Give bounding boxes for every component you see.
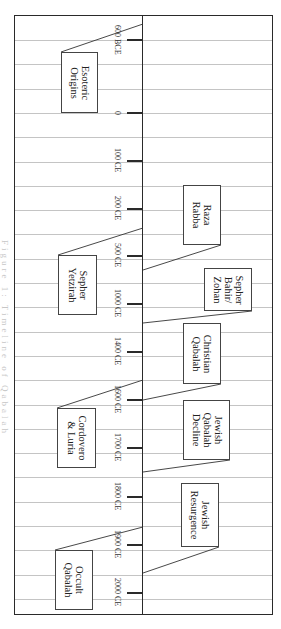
event-label: Sepher Bahir/ Zohan bbox=[212, 275, 245, 304]
connector-line bbox=[143, 547, 219, 573]
event-box: Sepher Bahir/ Zohan bbox=[204, 268, 252, 311]
event-label: Raza Rabba bbox=[191, 202, 213, 229]
event-box: Esoteric Origins bbox=[61, 52, 98, 113]
connector-line bbox=[61, 24, 143, 52]
connector-line bbox=[143, 384, 221, 400]
connector-line bbox=[143, 460, 230, 472]
event-box: Sepher Yetzirah bbox=[58, 255, 97, 315]
event-box: Jewish Resurgence bbox=[181, 483, 219, 547]
event-label: Jewish Qabalah Decline bbox=[190, 413, 223, 448]
event-label: Sepher Yetzirah bbox=[67, 267, 89, 302]
event-box: Christian Qabalah bbox=[183, 323, 221, 384]
event-label: Christian Qabalah bbox=[191, 334, 213, 373]
event-box: Cordovero & Luria bbox=[57, 408, 96, 468]
connector-line bbox=[55, 527, 143, 550]
event-box: Jewish Qabalah Decline bbox=[183, 400, 230, 460]
connector-line bbox=[58, 228, 143, 255]
event-label: Jewish Resurgence bbox=[189, 491, 211, 540]
event-label: Occult Qabalah bbox=[63, 563, 85, 598]
timeline-diagram: Figure 1: Timeline of Qabalah 600 BCE010… bbox=[0, 0, 281, 629]
event-label: Cordovero & Luria bbox=[66, 416, 88, 461]
event-box: Occult Qabalah bbox=[55, 550, 93, 610]
connector-line bbox=[143, 245, 221, 270]
connector-lines bbox=[0, 0, 281, 629]
event-label: Esoteric Origins bbox=[69, 65, 91, 99]
connector-line bbox=[57, 380, 143, 408]
event-box: Raza Rabba bbox=[183, 185, 221, 245]
connector-line bbox=[143, 311, 252, 323]
